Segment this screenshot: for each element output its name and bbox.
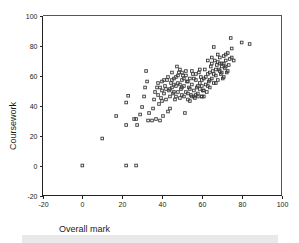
footer-bar — [22, 235, 278, 243]
y-tick-label: 20 — [30, 133, 38, 140]
x-axis-title: Overall mark — [59, 224, 111, 234]
x-tick-label: 0 — [81, 201, 85, 208]
y-tick-label: 60 — [30, 73, 38, 80]
scatter-plot-figure: -20020406080100 -20020406080100 Coursewo… — [0, 0, 299, 243]
y-tick-label: 0 — [34, 163, 38, 170]
x-tick-label: 20 — [119, 201, 127, 208]
x-tick-label: 100 — [277, 201, 289, 208]
x-tick-label: 40 — [159, 201, 167, 208]
x-tick-label: 60 — [199, 201, 207, 208]
x-tick-label: -20 — [38, 201, 48, 208]
scatter-plot-canvas: -20020406080100 -20020406080100 Coursewo… — [0, 0, 299, 243]
y-tick-label: 100 — [26, 13, 38, 20]
y-tick-label: 80 — [30, 43, 38, 50]
y-tick-label: 40 — [30, 103, 38, 110]
y-axis-title: Coursework — [8, 101, 18, 150]
y-tick-label: -20 — [27, 193, 37, 200]
x-tick-label: 80 — [239, 201, 247, 208]
